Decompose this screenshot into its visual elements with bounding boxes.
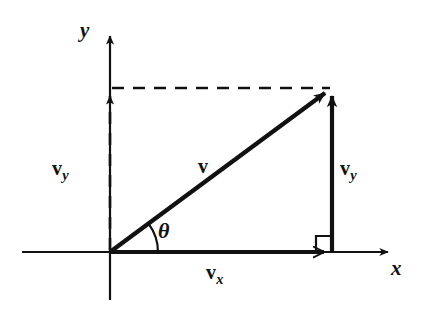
theta-angle-arc	[149, 224, 158, 252]
vy-axis-vector-label: vy	[52, 158, 69, 182]
y-axis-label: y	[80, 20, 89, 41]
vy-axis-vector-label-base: v	[52, 157, 62, 179]
resultant-vector-v	[110, 93, 325, 252]
x-axis-label: x	[391, 258, 402, 279]
theta-angle-label: θ	[158, 220, 169, 242]
vector-components-figure: y x v vy vy vx θ	[0, 0, 430, 309]
vy-axis-vector-label-sub: y	[62, 167, 68, 183]
resultant-vector-label: v	[198, 156, 208, 176]
vy-vector-label: vy	[340, 158, 357, 182]
right-angle-marker	[316, 236, 332, 252]
vx-vector-label: vx	[206, 262, 223, 286]
vx-vector-label-base: v	[206, 261, 216, 283]
vx-vector-label-sub: x	[216, 271, 223, 287]
vy-vector-label-base: v	[340, 157, 350, 179]
vy-vector-label-sub: y	[350, 167, 356, 183]
